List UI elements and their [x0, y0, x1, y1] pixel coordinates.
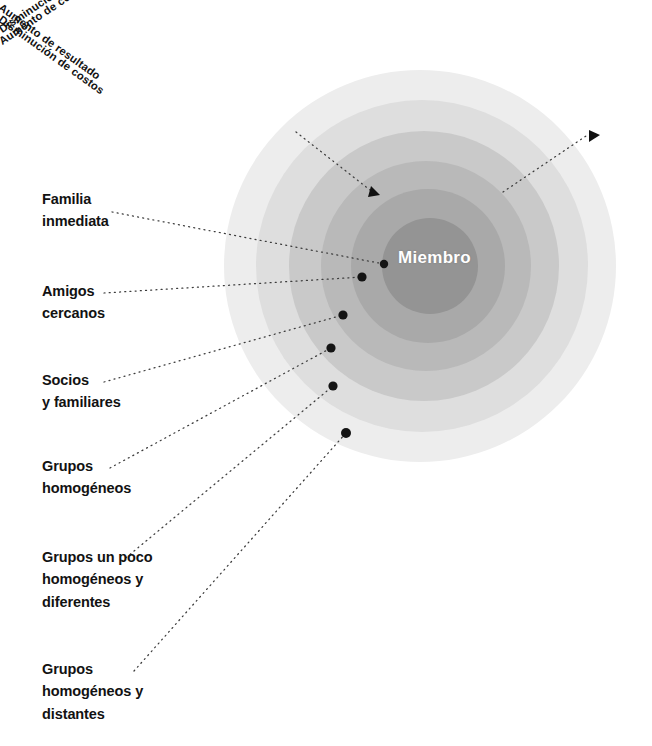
ring-label-grupos-homogeneos: Grupos homogéneos — [42, 455, 131, 500]
node-dot-socios-y-familiares — [338, 310, 347, 319]
diagram-canvas: Miembro Aumento de resultado Disminución… — [0, 0, 652, 746]
node-dot-familia-inmediata — [380, 260, 388, 268]
axis-arrow-right-icon — [589, 130, 600, 142]
node-dot-grupos-distantes — [341, 428, 351, 438]
ring-label-socios-y-familiares: Socios y familiares — [42, 369, 121, 414]
center-node-label: Miembro — [398, 245, 471, 271]
ring-label-amigos-cercanos: Amigos cercanos — [42, 280, 105, 325]
ring-label-grupos-homogeneos-y-distantes: Grupos homogéneos y distantes — [42, 658, 143, 725]
ring-label-grupos-un-poco-homogeneos-y-diferentes: Grupos un poco homogéneos y diferentes — [42, 546, 153, 613]
node-dot-grupos-un-poco — [328, 381, 337, 390]
ring-label-familia-inmediata: Familia inmediata — [42, 188, 109, 233]
leader-line-grupos-distantes — [134, 433, 346, 671]
node-dot-grupos-homogeneos — [326, 343, 335, 352]
